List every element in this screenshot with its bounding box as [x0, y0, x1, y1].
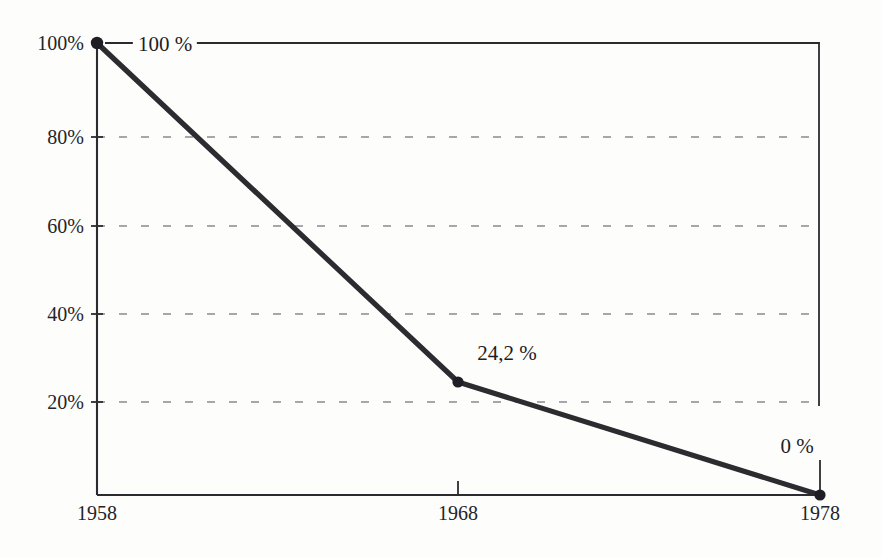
data-markers [91, 37, 826, 501]
y-axis-label-20: 20% [0, 391, 84, 414]
x-axis-label-1968: 1968 [438, 502, 478, 525]
data-label-1958: 100 % [133, 34, 197, 55]
data-point-1968 [452, 376, 463, 387]
chart-canvas [0, 0, 882, 557]
data-label-1978: 0 % [775, 436, 818, 457]
y-axis-label-60: 60% [0, 215, 84, 238]
data-label-1968: 24,2 % [472, 343, 542, 364]
y-axis-label-80: 80% [0, 126, 84, 149]
y-axis-label-40: 40% [0, 303, 84, 326]
data-line [97, 43, 820, 495]
x-axis-label-1978: 1978 [800, 502, 840, 525]
data-point-1978 [814, 489, 825, 500]
x-axis-label-1958: 1958 [77, 502, 117, 525]
data-point-1958 [91, 37, 103, 49]
line-chart: 100% 80% 60% 40% 20% 1958 1968 1978 100 … [0, 0, 882, 557]
gridlines [97, 137, 818, 402]
y-axis-label-100: 100% [0, 32, 84, 55]
